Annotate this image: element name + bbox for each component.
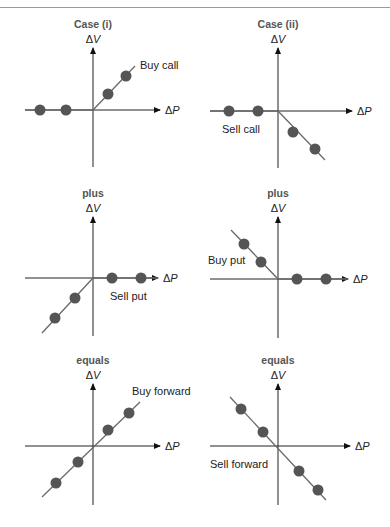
data-point <box>258 427 269 438</box>
payoff-line <box>231 230 348 279</box>
x-axis-label: ΔP <box>353 273 368 285</box>
position-label: Buy call <box>140 59 179 71</box>
data-point <box>292 274 303 285</box>
panel-plus-sell-put: plusΔVΔPSell put <box>25 187 178 336</box>
data-point <box>224 106 235 117</box>
data-point <box>107 273 118 284</box>
data-point <box>73 457 84 468</box>
data-point <box>236 404 247 415</box>
data-point <box>51 478 62 489</box>
y-axis-label: ΔV <box>86 202 102 214</box>
panel-title: plus <box>267 187 289 199</box>
x-axis-label: ΔP <box>165 104 180 116</box>
data-point <box>70 293 81 304</box>
y-axis-label: ΔV <box>271 202 287 214</box>
panel-title: Case (ii) <box>258 18 299 30</box>
data-point <box>239 239 250 250</box>
panel-title: equals <box>261 354 294 366</box>
panel-case-i-buy-call: Case (i)ΔVΔPBuy call <box>25 18 180 167</box>
data-point <box>121 71 132 82</box>
y-axis-label: ΔV <box>271 33 287 45</box>
data-point <box>288 127 299 138</box>
data-point <box>253 106 264 117</box>
position-label: Sell forward <box>210 458 268 470</box>
panel-equals-sell-forward: equalsΔVΔPSell forward <box>210 354 370 505</box>
payoff-diagram: Case (i)ΔVΔPBuy callCase (ii)ΔVΔPSell ca… <box>0 0 390 527</box>
data-point <box>61 105 72 116</box>
y-axis-label: ΔV <box>86 33 102 45</box>
panel-equals-buy-forward: equalsΔVΔPBuy forward <box>25 354 191 505</box>
y-axis-label: ΔV <box>86 369 102 381</box>
x-axis-label: ΔP <box>163 272 178 284</box>
panel-title: Case (i) <box>74 18 112 30</box>
data-point <box>35 105 46 116</box>
x-axis-label: ΔP <box>357 105 372 117</box>
data-point <box>103 89 114 100</box>
data-point <box>321 274 332 285</box>
x-axis-label: ΔP <box>355 440 370 452</box>
panel-plus-buy-put: plusΔVΔPBuy put <box>208 187 368 338</box>
data-point <box>136 273 147 284</box>
position-label: Buy forward <box>132 385 191 397</box>
data-point <box>294 466 305 477</box>
payoff-line <box>42 278 158 333</box>
payoff-line <box>210 111 325 160</box>
x-axis-label: ΔP <box>165 440 180 452</box>
panel-title: equals <box>76 354 109 366</box>
data-point <box>310 144 321 155</box>
y-axis-label: ΔV <box>271 369 287 381</box>
data-point <box>313 485 324 496</box>
data-point <box>50 313 61 324</box>
data-point <box>256 257 267 268</box>
position-label: Buy put <box>208 254 245 266</box>
position-label: Sell call <box>222 123 260 135</box>
data-point <box>124 408 135 419</box>
panel-title: plus <box>82 187 104 199</box>
data-point <box>103 425 114 436</box>
panel-case-ii-sell-call: Case (ii)ΔVΔPSell call <box>210 18 372 168</box>
position-label: Sell put <box>110 290 147 302</box>
payoff-line <box>25 66 135 110</box>
